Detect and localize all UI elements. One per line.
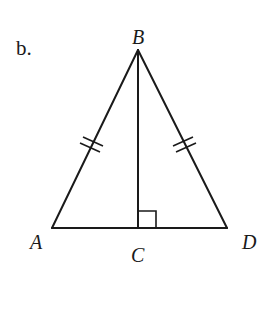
vertex-label-D: D xyxy=(241,231,257,253)
segment-AB xyxy=(52,50,138,228)
vertex-label-C: C xyxy=(131,244,145,266)
right-angle-marker xyxy=(138,211,156,228)
segment-BD xyxy=(138,50,227,228)
part-label: b. xyxy=(16,36,32,60)
isosceles-triangle-diagram: b. B A C D xyxy=(0,0,269,336)
vertex-label-A: A xyxy=(28,231,43,253)
vertex-label-B: B xyxy=(132,26,144,48)
